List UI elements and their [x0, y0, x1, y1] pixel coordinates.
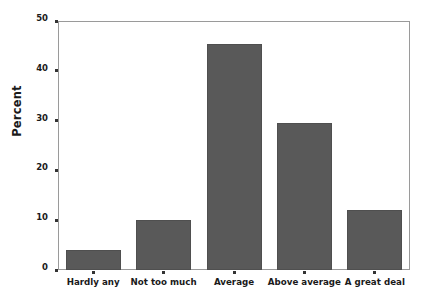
y-tick: 30	[0, 121, 58, 122]
x-tick-label: Above average	[268, 278, 341, 287]
x-tick-label: A great deal	[345, 278, 405, 287]
bar-chart: Percent 01020304050 Hardly anyNot too mu…	[0, 0, 428, 303]
y-tick-label: 30	[36, 114, 48, 123]
bar[interactable]	[207, 44, 262, 270]
bar[interactable]	[347, 210, 402, 270]
y-tick-label: 40	[36, 64, 48, 73]
y-axis-label: Percent	[10, 71, 24, 151]
y-tick: 0	[0, 270, 58, 271]
bar-slot	[136, 21, 191, 270]
bars-layer	[58, 21, 410, 270]
x-tick-label: Average	[214, 278, 254, 287]
x-tick-mark	[162, 271, 165, 274]
y-tick-label: 10	[36, 213, 48, 222]
bar[interactable]	[66, 250, 121, 270]
x-tick-mark	[373, 271, 376, 274]
y-tick: 40	[0, 71, 58, 72]
x-tick-label: Not too much	[131, 278, 197, 287]
bar-slot	[277, 21, 332, 270]
bar-slot	[207, 21, 262, 270]
y-tick: 20	[0, 170, 58, 171]
y-tick-label: 50	[36, 14, 48, 23]
y-tick-label: 0	[42, 263, 48, 272]
y-tick-label: 20	[36, 163, 48, 172]
y-tick: 50	[0, 21, 58, 22]
bar[interactable]	[136, 220, 191, 270]
bar-slot	[66, 21, 121, 270]
x-tick-mark	[233, 271, 236, 274]
bar-slot	[347, 21, 402, 270]
bar[interactable]	[277, 123, 332, 270]
x-tick-mark	[92, 271, 95, 274]
x-tick-mark	[303, 271, 306, 274]
y-tick: 10	[0, 220, 58, 221]
x-tick-label: Hardly any	[67, 278, 120, 287]
